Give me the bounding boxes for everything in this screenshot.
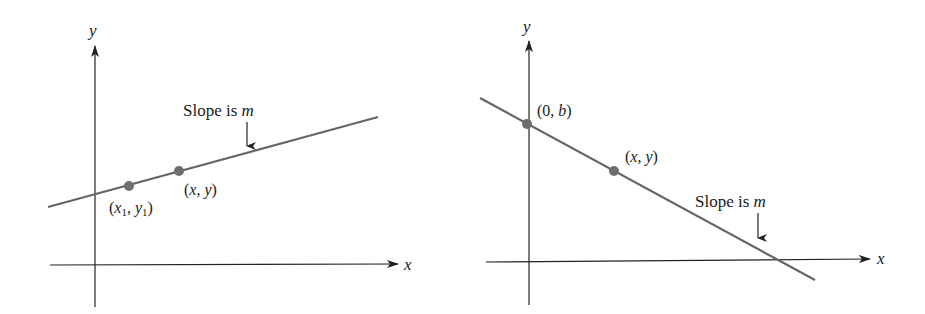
point-x-y — [609, 166, 619, 176]
x-axis-label: x — [403, 255, 412, 274]
slope-label: Slope is m — [695, 192, 766, 211]
x-axis — [486, 259, 870, 262]
figure-canvas: y x (x1, y1) (x, y) Slope is m y x (0, b… — [0, 0, 925, 314]
point-label-x-y: (x, y) — [184, 181, 217, 199]
right-panel: y x (0, b) (x, y) Slope is m — [480, 17, 885, 305]
point-x1-y1 — [124, 181, 134, 191]
point-label-x-y: (x, y) — [625, 148, 658, 166]
x-axis-label: x — [876, 249, 885, 268]
point-x-y — [174, 166, 184, 176]
y-axis-label: y — [87, 21, 97, 40]
point-label-x1-y1: (x1, y1) — [109, 199, 153, 218]
x-axis — [50, 264, 398, 265]
point-0-b — [522, 119, 532, 129]
y-axis-label: y — [521, 17, 531, 36]
point-label-0-b: (0, b) — [537, 102, 572, 120]
left-panel: y x (x1, y1) (x, y) Slope is m — [48, 21, 412, 307]
slope-label: Slope is m — [183, 101, 254, 120]
